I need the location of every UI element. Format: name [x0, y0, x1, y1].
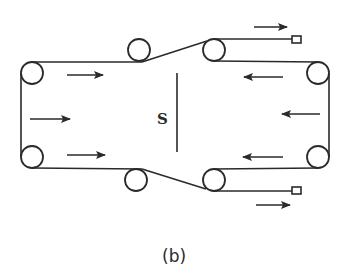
belt-bottom-left-run — [32, 168, 142, 169]
roller-top-right — [307, 62, 329, 84]
direction-arrows — [30, 27, 320, 205]
belt-roller-diagram: S (b) — [0, 0, 348, 276]
roller-bottom-right-inner — [203, 169, 225, 191]
belt-path — [21, 39, 329, 191]
roller-bottom-middle — [125, 169, 147, 191]
belt-top-return — [214, 61, 318, 62]
end-box-bottom — [292, 187, 301, 194]
end-box-top — [292, 36, 301, 43]
roller-top-left — [21, 62, 43, 84]
belt-top-diagonal — [142, 41, 207, 62]
belt-bottom-return — [214, 168, 318, 169]
roller-top-middle — [128, 39, 150, 61]
figure-caption: (b) — [162, 246, 186, 266]
belt-bottom-diagonal — [142, 169, 206, 189]
roller-top-right-inner — [203, 39, 225, 61]
separator-label: S — [157, 110, 168, 128]
roller-bottom-left — [21, 146, 43, 168]
roller-bottom-right — [307, 146, 329, 168]
